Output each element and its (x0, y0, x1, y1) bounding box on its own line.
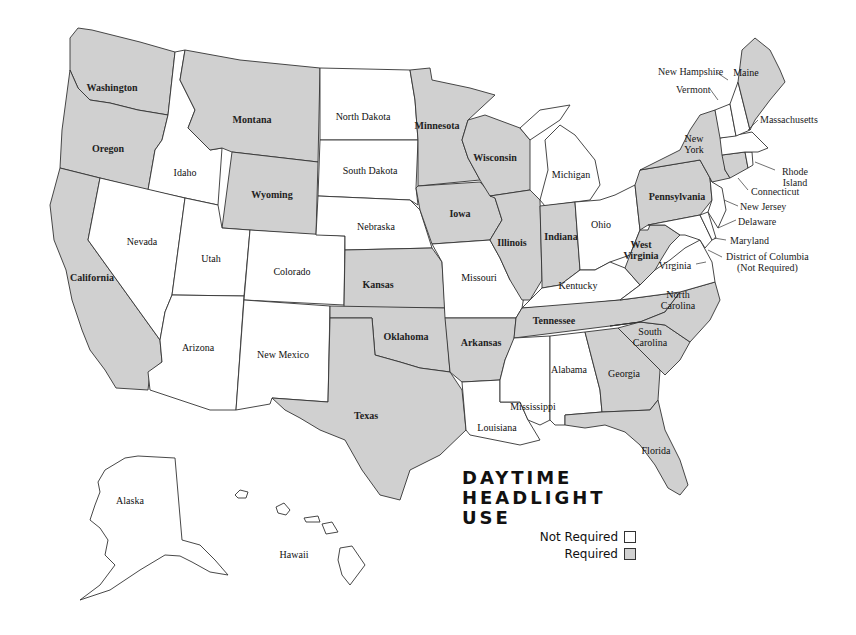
label-south-carolina: South Carolina (624, 326, 676, 348)
label-rhode-island: Rhode Island (778, 166, 812, 188)
state-hawaii[interactable] (235, 490, 365, 585)
label-wisconsin: Wisconsin (473, 152, 517, 163)
label-florida: Florida (642, 445, 671, 456)
map-title: DAYTIME HEADLIGHT USE (462, 468, 606, 528)
label-illinois: Illinois (497, 237, 526, 248)
label-iowa: Iowa (449, 208, 470, 219)
title-line-3: USE (462, 508, 606, 528)
label-nebraska: Nebraska (357, 221, 395, 232)
label-ohio: Ohio (591, 219, 611, 230)
label-tennessee: Tennessee (533, 315, 575, 326)
label-connecticut: Connecticut (751, 186, 799, 197)
label-montana: Montana (233, 114, 272, 125)
label-alabama: Alabama (551, 364, 587, 375)
state-north-dakota[interactable] (320, 68, 418, 140)
label-delaware: Delaware (738, 216, 776, 227)
label-georgia: Georgia (608, 368, 640, 379)
legend-required: Required (565, 547, 636, 561)
label-nevada: Nevada (127, 236, 158, 247)
label-new-hampshire: New Hampshire (658, 66, 723, 77)
label-michigan: Michigan (552, 169, 590, 180)
legend-label-not-required: Not Required (540, 530, 618, 544)
label-california: California (70, 272, 114, 283)
label-kentucky: Kentucky (559, 280, 598, 291)
label-alaska: Alaska (116, 495, 144, 506)
dc-name: District of Columbia (726, 251, 809, 262)
label-north-carolina: North Carolina (655, 289, 701, 311)
label-oregon: Oregon (92, 143, 124, 154)
label-west-virginia: West Virginia (621, 239, 661, 261)
label-hawaii: Hawaii (280, 549, 309, 560)
state-alaska[interactable] (80, 456, 228, 600)
label-colorado: Colorado (273, 266, 310, 277)
label-new-jersey: New Jersey (740, 201, 786, 212)
label-massachusetts: Massachusetts (760, 114, 818, 125)
label-new-york: New York (678, 133, 710, 155)
label-indiana: Indiana (544, 231, 577, 242)
label-maryland: Maryland (730, 235, 769, 246)
us-map (0, 0, 856, 635)
label-district-of-columbia: District of Columbia (Not Required) (726, 251, 809, 273)
legend-not-required: Not Required (540, 530, 636, 544)
dc-note: (Not Required) (726, 262, 809, 273)
label-washington: Washington (86, 82, 137, 93)
label-kansas: Kansas (362, 279, 393, 290)
label-arkansas: Arkansas (461, 337, 502, 348)
label-idaho: Idaho (174, 167, 197, 178)
label-louisiana: Louisiana (477, 422, 516, 433)
legend-swatch-not-required (624, 531, 636, 543)
label-minnesota: Minnesota (415, 120, 460, 131)
label-pennsylvania: Pennsylvania (649, 191, 706, 202)
label-wyoming: Wyoming (251, 189, 292, 200)
legend-swatch-required (624, 548, 636, 560)
legend-label-required: Required (565, 547, 618, 561)
label-oklahoma: Oklahoma (383, 331, 428, 342)
label-north-dakota: North Dakota (336, 111, 391, 122)
title-line-1: DAYTIME (462, 468, 606, 488)
label-texas: Texas (354, 410, 378, 421)
state-kansas[interactable] (344, 248, 445, 308)
label-vermont: Vermont (676, 84, 710, 95)
label-mississippi: Mississippi (510, 401, 556, 412)
state-michigan[interactable] (520, 105, 600, 206)
label-virginia: Virginia (659, 260, 692, 271)
label-south-dakota: South Dakota (343, 165, 398, 176)
label-new-mexico: New Mexico (257, 349, 309, 360)
label-missouri: Missouri (461, 272, 497, 283)
label-arizona: Arizona (182, 342, 214, 353)
label-utah: Utah (201, 253, 220, 264)
title-line-2: HEADLIGHT (462, 488, 606, 508)
label-maine: Maine (733, 67, 759, 78)
